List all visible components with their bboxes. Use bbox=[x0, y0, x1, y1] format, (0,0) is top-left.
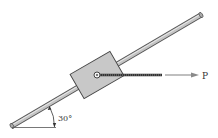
diagram-canvas: P 30° bbox=[0, 0, 218, 138]
pin-icon bbox=[94, 72, 100, 78]
angle-label: 30° bbox=[58, 114, 72, 123]
force-label: P bbox=[202, 71, 208, 81]
force-arrow-icon bbox=[165, 73, 199, 78]
